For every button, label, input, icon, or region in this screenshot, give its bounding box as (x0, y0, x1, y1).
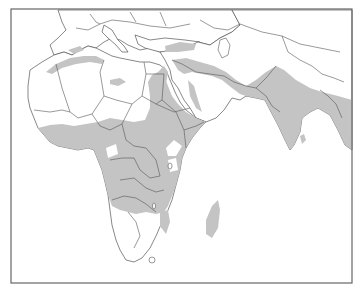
distribution-map (0, 0, 361, 290)
